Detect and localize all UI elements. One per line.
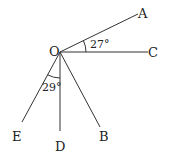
ray-OB: [60, 52, 100, 127]
angle-label-EOD: 29°: [42, 81, 62, 94]
angle-label-AOC: 27°: [90, 38, 110, 51]
angle-arc-AOC: [83, 41, 86, 52]
point-label-O: O: [49, 44, 60, 59]
angle-arc-EOD: [48, 75, 60, 78]
geometry-diagram: O A C E D B 27° 29°: [0, 0, 169, 158]
point-label-E: E: [12, 129, 22, 144]
point-label-C: C: [148, 45, 158, 60]
point-label-B: B: [99, 129, 109, 144]
point-label-D: D: [55, 139, 65, 154]
point-label-A: A: [137, 6, 148, 21]
